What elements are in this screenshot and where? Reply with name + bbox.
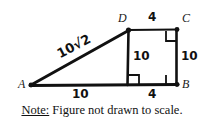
right-angle-marker-C [166,31,176,41]
vertex-dot-A [29,83,34,88]
side-label-base-right: 4 [148,88,156,100]
vertex-label-A: A [18,78,25,90]
note-prefix: Note: [21,103,49,117]
vertex-label-D: D [118,12,127,24]
note-line: Note: Figure not drawn to scale. [0,104,204,118]
geometry-figure-page: A B C D 10√2 4 10 10 10 4 Note: Figure n… [0,0,204,121]
side-label-top: 4 [148,11,156,23]
vertex-label-C: C [182,12,190,24]
vertex-dot-D [126,27,131,32]
side-label-base-left: 10 [72,88,89,100]
segment-interior-vertical [128,31,129,86]
vertex-dot-C [175,27,180,32]
segment-base-AB [30,85,178,86]
side-label-interior-vertical: 10 [133,50,150,62]
vertex-label-B: B [182,78,189,90]
side-label-right: 10 [181,50,198,62]
segment-top-DC [128,30,177,31]
note-text: Figure not drawn to scale. [52,103,182,117]
vertex-dot-B [175,82,180,87]
